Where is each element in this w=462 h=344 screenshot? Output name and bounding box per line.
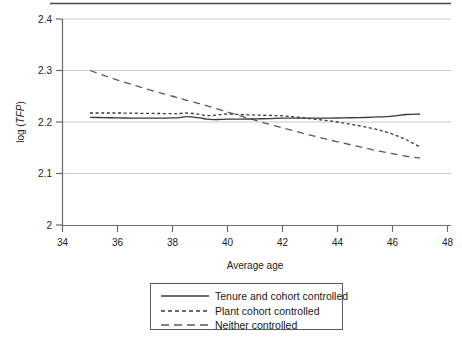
- y-tick-label: 2.2: [38, 117, 52, 128]
- y-tick-label: 2.1: [38, 168, 52, 179]
- legend-label: Plant cohort controlled: [215, 305, 320, 317]
- y-axis-title-italic: TFP: [15, 104, 26, 123]
- x-tick-label: 44: [332, 237, 344, 248]
- x-tick-label: 38: [167, 237, 179, 248]
- y-tick-label: 2: [46, 220, 52, 231]
- y-tick-label: 2.4: [38, 14, 52, 25]
- x-tick-label: 42: [277, 237, 289, 248]
- legend-label: Neither controlled: [215, 319, 297, 331]
- chart-figure: 2.4 2.3 2.2 2.1 2 34 36 38 40 42 44 46 4: [0, 0, 462, 344]
- y-axis-title: log (TFP): [15, 101, 26, 143]
- x-tick-label: 40: [222, 237, 234, 248]
- y-axis-title-prefix: log (: [15, 123, 26, 143]
- x-tick-label: 34: [57, 237, 69, 248]
- x-tick-label: 36: [112, 237, 124, 248]
- x-axis-title: Average age: [227, 260, 284, 271]
- y-tick-label: 2.3: [38, 65, 52, 76]
- chart-legend: Tenure and cohort controlled Plant cohor…: [151, 284, 349, 331]
- legend-label: Tenure and cohort controlled: [215, 290, 348, 302]
- y-axis-title-suffix: ): [15, 101, 26, 104]
- x-tick-label: 48: [442, 237, 454, 248]
- x-tick-label: 46: [387, 237, 399, 248]
- tfp-age-line-chart: 2.4 2.3 2.2 2.1 2 34 36 38 40 42 44 46 4: [0, 0, 462, 344]
